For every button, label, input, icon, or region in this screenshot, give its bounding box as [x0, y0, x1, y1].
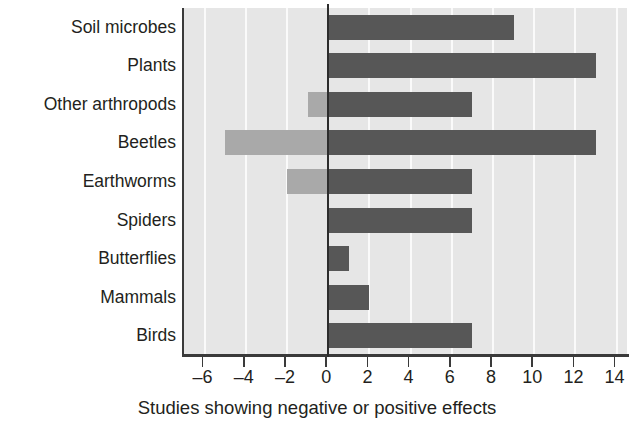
bar-chart-figure: Soil microbesPlantsOther arthropodsBeetl…	[0, 0, 634, 429]
x-axis-tick-label: 2	[362, 368, 372, 386]
category-label: Butterflies	[0, 250, 176, 268]
x-axis-tick-label: 8	[486, 368, 496, 386]
x-axis-tick-label: –2	[275, 368, 295, 386]
bar-negative	[287, 169, 328, 194]
x-axis-tick-label: 14	[605, 368, 625, 386]
category-label: Birds	[0, 327, 176, 345]
x-axis-tick-label: 0	[321, 368, 331, 386]
bar-positive	[328, 208, 472, 233]
x-axis-tick-label: 12	[563, 368, 583, 386]
bar-positive	[328, 323, 472, 348]
x-axis-tick	[531, 356, 533, 367]
x-axis-tick-label: 4	[404, 368, 414, 386]
plot-area	[182, 8, 627, 355]
x-axis-tick	[284, 356, 286, 367]
x-axis-tick	[573, 356, 575, 367]
bar-positive	[328, 285, 369, 310]
category-label: Soil microbes	[0, 19, 176, 37]
bar-positive	[328, 92, 472, 117]
x-axis-tick-label: 10	[522, 368, 542, 386]
bar-negative	[225, 130, 328, 155]
bar-positive	[328, 246, 349, 271]
x-axis-tick-label-group: –6–4–202468101214	[0, 368, 634, 394]
category-label: Earthworms	[0, 173, 176, 191]
category-label: Spiders	[0, 212, 176, 230]
x-axis-tick	[367, 356, 369, 367]
bar-positive	[328, 130, 596, 155]
x-axis-tick-label: –4	[234, 368, 254, 386]
x-axis-tick	[202, 356, 204, 367]
bar-positive	[328, 15, 513, 40]
bar-positive	[328, 53, 596, 78]
x-axis-tick	[490, 356, 492, 367]
bar-positive	[328, 169, 472, 194]
category-label: Plants	[0, 57, 176, 75]
zero-reference-line	[327, 4, 329, 357]
x-axis-tick	[325, 356, 327, 367]
gridline	[616, 8, 618, 355]
x-axis-tick	[243, 356, 245, 367]
bar-negative	[308, 92, 329, 117]
category-label: Mammals	[0, 289, 176, 307]
x-axis-tick	[449, 356, 451, 367]
category-label-column: Soil microbesPlantsOther arthropodsBeetl…	[0, 8, 176, 355]
x-axis-tick	[614, 356, 616, 367]
x-axis-tick	[408, 356, 410, 367]
x-axis-title: Studies showing negative or positive eff…	[0, 399, 634, 418]
category-label: Beetles	[0, 134, 176, 152]
gridline	[204, 8, 206, 355]
x-axis-tick-label: –6	[193, 368, 213, 386]
gridline	[245, 8, 247, 355]
category-label: Other arthropods	[0, 96, 176, 114]
x-axis-tick-label: 6	[445, 368, 455, 386]
